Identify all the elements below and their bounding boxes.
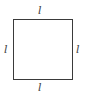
side-label-bottom: l [38,82,42,93]
side-label-right: l [76,44,80,55]
square-shape [13,19,73,80]
side-label-left: l [4,44,8,55]
side-label-top: l [38,5,42,16]
